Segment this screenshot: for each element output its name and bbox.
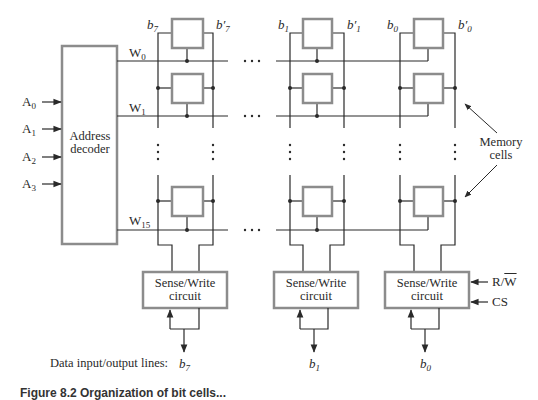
bit-label-b7: b7	[147, 18, 158, 34]
word-line-label-w0: W0	[129, 46, 146, 62]
bit-label-b7-prime: b′7	[216, 18, 230, 34]
sense-write-label-b0: Sense/Writecircuit	[385, 277, 469, 303]
word-line-label-w1: W1	[129, 101, 146, 117]
data-output-b7: b7	[179, 357, 190, 373]
bit-label-b1: b1	[278, 18, 289, 34]
sense-write-label-b7: Sense/Writecircuit	[143, 277, 227, 303]
data-output-b0: b0	[420, 357, 431, 373]
memory-cells-label: Memorycells	[474, 136, 528, 162]
bit-label-b1-prime: b′1	[347, 18, 361, 34]
data-lines-label: Data input/output lines:	[50, 357, 168, 370]
word-lines	[117, 48, 428, 230]
chip-select-label: CS	[492, 295, 508, 308]
address-decoder-label: Address decoder	[62, 130, 118, 156]
word-line-label-w15: W15	[129, 214, 150, 230]
address-input-a0: A0	[22, 95, 36, 111]
address-input-a3: A3	[22, 177, 36, 193]
address-input-a1: A1	[22, 122, 36, 138]
control-arrows	[471, 282, 488, 302]
read-write-control-label: R/W	[492, 275, 517, 288]
address-input-arrows	[42, 102, 61, 184]
sense-write-label-b1: Sense/Writecircuit	[274, 277, 358, 303]
bit-label-b0-prime: b′0	[458, 18, 472, 34]
address-input-a2: A2	[22, 150, 36, 166]
figure-caption: Figure 8.2 Organization of bit cells...	[20, 386, 226, 400]
bit-label-b0: b0	[387, 18, 398, 34]
row-ellipses	[244, 60, 260, 231]
data-output-b1: b1	[309, 357, 320, 373]
